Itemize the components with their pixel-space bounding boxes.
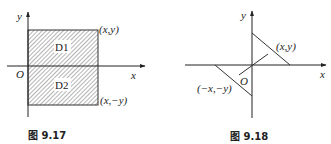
y-axis-label: y bbox=[16, 10, 22, 22]
origin-label: O bbox=[16, 68, 24, 80]
point-label-x-negy: (x,−y) bbox=[100, 94, 128, 107]
y-axis-label: y bbox=[240, 9, 246, 21]
region-label-d1: D1 bbox=[55, 41, 68, 53]
x-axis-label: x bbox=[130, 69, 136, 81]
point-label-xy: (x,y) bbox=[276, 40, 296, 53]
figure-9-17: y x O D1 D2 (x,y) (x,−y) 图 9.17 bbox=[7, 10, 145, 141]
region-label-d2: D2 bbox=[55, 79, 68, 91]
figure-9-18: y x O (x,y) (−x,−y) 图 9.18 bbox=[185, 9, 326, 142]
figures-canvas: y x O D1 D2 (x,y) (x,−y) 图 9.17 y x O (x… bbox=[0, 0, 331, 144]
figure-caption: 图 9.18 bbox=[230, 131, 268, 142]
x-axis-label: x bbox=[319, 68, 325, 80]
point-label-negx-negy: (−x,−y) bbox=[197, 82, 232, 95]
figure-caption: 图 9.17 bbox=[28, 130, 66, 141]
point-label-xy: (x,y) bbox=[99, 23, 119, 36]
origin-label: O bbox=[240, 75, 248, 87]
